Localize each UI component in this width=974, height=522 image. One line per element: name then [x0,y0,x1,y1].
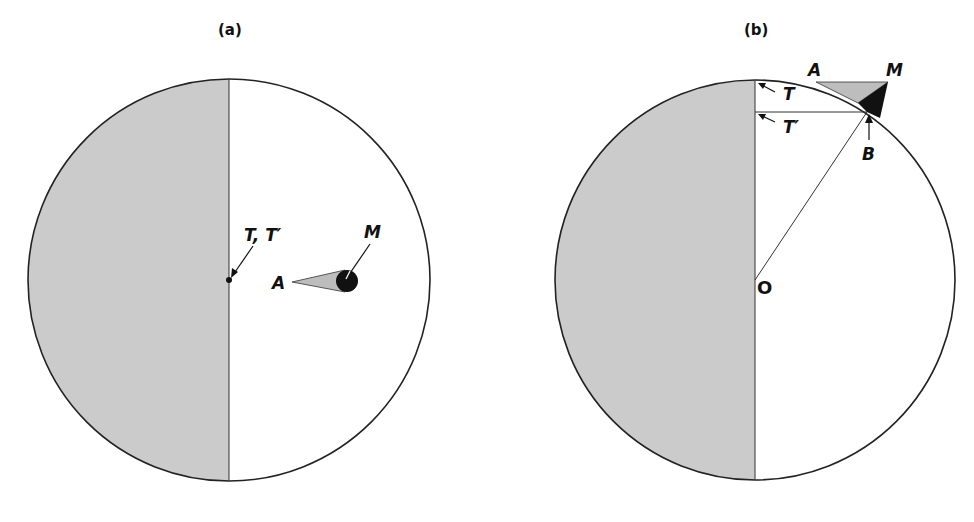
label-o-b: O [757,277,772,298]
label-tt: T, T′ [244,225,282,245]
moon-m-a [336,270,358,292]
label-a-b: A [806,60,821,80]
label-m-b: M [886,60,903,80]
shaded-half-a [28,79,229,481]
label-a-a: A [270,273,285,293]
radius-ob [755,112,867,280]
label-m-a: M [364,222,381,242]
label-b-b: B [862,144,875,164]
label-tp-b: T′ [783,117,800,137]
panel-a: (a) T, T′ M A [28,21,430,481]
arrow-m-a [346,244,370,279]
arrow-t [233,246,253,275]
shaded-half-b [555,80,755,480]
label-t-b: T [783,84,796,104]
panel-b: (b) A M T T′ B O [555,21,955,480]
panel-b-title: (b) [744,21,768,39]
panel-a-title: (a) [218,21,242,39]
diagram-canvas: (a) T, T′ M A (b) A M T T′ B O [0,0,974,522]
